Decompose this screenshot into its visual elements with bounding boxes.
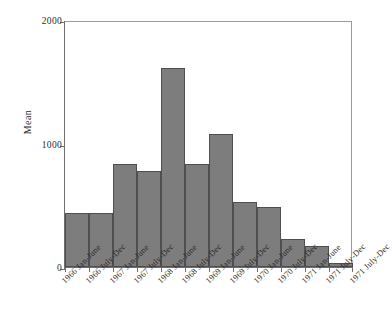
bar-chart-figure: Mean 010002000 1966 Jan-June1966 July-De… (0, 0, 392, 334)
y-tick-label: 0 (57, 263, 62, 273)
y-axis-title: Mean (22, 92, 33, 152)
y-tick-label: 1000 (42, 140, 62, 150)
plot-area: 010002000 (64, 21, 352, 268)
bar-series (65, 22, 351, 267)
y-tick-label: 2000 (42, 16, 62, 26)
bar[interactable] (161, 68, 185, 267)
